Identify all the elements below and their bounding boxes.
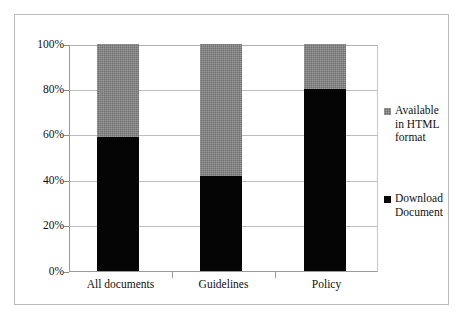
plot-area <box>69 45 378 272</box>
legend-label-available-html-line1: Available <box>395 104 446 118</box>
legend-item-download-document[interactable]: Download Document <box>384 192 443 219</box>
legend-label-available-html-line2: in HTML <box>395 118 446 132</box>
chart-legend: Available in HTML format Download Docume… <box>384 104 446 145</box>
y-tick-label-20: 20% <box>0 219 64 231</box>
y-tick-label-80: 80% <box>0 83 64 95</box>
x-axis-label-policy: Policy <box>275 278 378 290</box>
bar-policy[interactable] <box>304 44 346 271</box>
bar-guidelines[interactable] <box>200 44 242 271</box>
x-axis-label-guidelines: Guidelines <box>172 278 275 290</box>
bar-all-documents[interactable] <box>97 44 139 271</box>
legend-label-available-html: Available in HTML format <box>395 104 446 145</box>
stacked-bar-chart: 100% 80% 60% 40% 20% 0% <box>0 0 464 321</box>
bar-segment-download-document-guidelines[interactable] <box>200 176 242 271</box>
y-tick-label-0: 0% <box>0 265 64 277</box>
black-swatch-icon <box>384 196 391 203</box>
gray-dither-swatch-icon <box>384 108 391 115</box>
bar-segment-download-document-all-documents[interactable] <box>97 137 139 271</box>
legend-label-download-document-line2: Document <box>395 206 443 220</box>
legend-item-available-html[interactable]: Available in HTML format <box>384 104 446 145</box>
y-tick-label-100: 100% <box>0 38 64 50</box>
y-tick-label-40: 40% <box>0 174 64 186</box>
legend-label-download-document: Download Document <box>395 192 443 219</box>
y-tick-label-60: 60% <box>0 128 64 140</box>
bar-segment-available-html-all-documents[interactable] <box>97 44 139 137</box>
bar-segment-available-html-policy[interactable] <box>304 44 346 89</box>
y-tick-mark-0 <box>64 272 69 273</box>
bar-segment-download-document-policy[interactable] <box>304 89 346 271</box>
legend-label-download-document-line1: Download <box>395 192 443 206</box>
legend-label-available-html-line3: format <box>395 131 446 145</box>
x-axis-label-all-documents: All documents <box>69 278 172 290</box>
bar-segment-available-html-guidelines[interactable] <box>200 44 242 176</box>
